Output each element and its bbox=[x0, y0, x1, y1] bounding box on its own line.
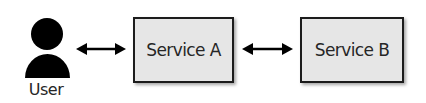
bidirectional-arrow-icon bbox=[76, 43, 126, 55]
user-label: User bbox=[22, 80, 70, 99]
service-b-box: Service B bbox=[300, 17, 404, 83]
service-b-label: Service B bbox=[315, 40, 390, 60]
service-a-label: Service A bbox=[146, 40, 220, 60]
user-icon bbox=[25, 18, 70, 78]
diagram-canvas: User Service A Service B bbox=[0, 0, 426, 103]
service-a-box: Service A bbox=[133, 17, 234, 83]
bidirectional-arrow-icon bbox=[242, 43, 293, 55]
